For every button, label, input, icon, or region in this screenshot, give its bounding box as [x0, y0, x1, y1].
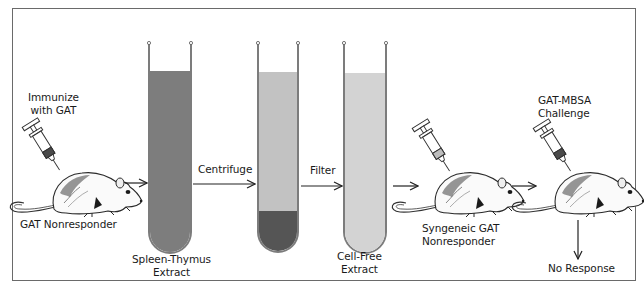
mouse-icon-recipient — [392, 173, 524, 217]
syringe-icon-challenge — [533, 119, 578, 176]
tube-icon-centrifuged — [256, 41, 299, 252]
donor-label: GAT Nonresponder — [20, 218, 117, 231]
outcome-label: No Response — [548, 262, 615, 275]
recipient-label-line2: Nonresponder — [422, 235, 499, 248]
diagram-graphics — [0, 0, 644, 295]
mouse-icon-challenge — [512, 173, 644, 217]
challenge-label: GAT-MBSA Challenge — [538, 94, 591, 120]
immunize-label: Immunize with GAT — [28, 91, 79, 117]
tube-icon-cell-free — [342, 41, 387, 253]
tube-icon-extract — [147, 41, 192, 253]
recipient-label-line1: Syngeneic GAT — [422, 222, 499, 235]
immunize-label-line1: Immunize — [28, 91, 79, 104]
extract-label-line1: Spleen-Thymus — [132, 253, 211, 266]
mouse-icon-donor — [10, 173, 142, 217]
syringe-icon-donor — [22, 118, 67, 175]
challenge-label-line1: GAT-MBSA — [538, 94, 591, 107]
extract-label: Spleen-Thymus Extract — [132, 253, 211, 279]
cell-free-label-line1: Cell-Free — [337, 250, 382, 263]
recipient-label: Syngeneic GAT Nonresponder — [422, 222, 499, 248]
filter-label: Filter — [310, 164, 335, 177]
centrifuge-label: Centrifuge — [198, 163, 252, 176]
extract-label-line2: Extract — [132, 266, 211, 279]
syringe-icon-recipient — [412, 119, 457, 176]
cell-free-label-line2: Extract — [337, 263, 382, 276]
challenge-label-line2: Challenge — [538, 107, 591, 120]
immunize-label-line2: with GAT — [28, 104, 79, 117]
cell-free-label: Cell-Free Extract — [337, 250, 382, 276]
